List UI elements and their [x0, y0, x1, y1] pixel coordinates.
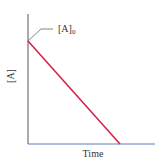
zero-order-plot: [A]0 [A] Time — [0, 0, 161, 167]
x-axis-label: Time — [83, 148, 104, 159]
annotation-label: [A]0 — [58, 23, 76, 36]
annotation-leader — [28, 29, 53, 41]
y-axis-label: [A] — [5, 69, 16, 83]
data-line — [28, 41, 120, 144]
